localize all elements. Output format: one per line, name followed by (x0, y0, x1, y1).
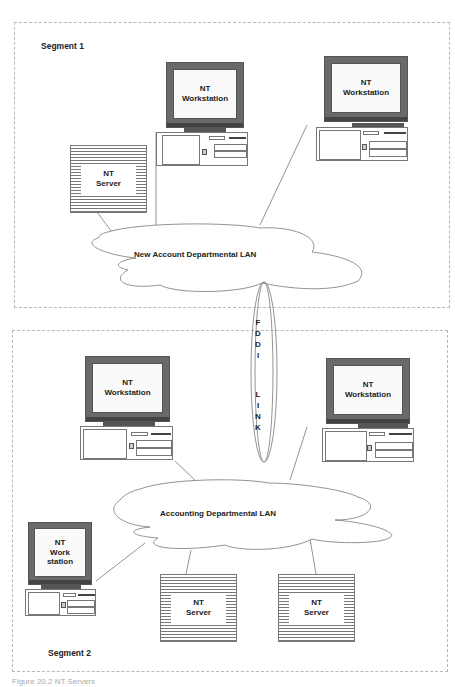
lan-label-accounting: Accounting Departmental LAN (160, 509, 276, 518)
server-label-line1: NT (193, 598, 204, 608)
fddi-link-ellipse (251, 282, 277, 462)
workstation-icon-seg2-left: NT Workstation (80, 356, 180, 464)
server-icon-seg1: NT Server (70, 145, 147, 213)
link-seg1-ws-right (260, 125, 307, 225)
server-label-line1: NT (311, 598, 322, 608)
server-icon-seg2-a: NT Server (160, 574, 237, 642)
workstation-label-line2: Work (50, 548, 70, 558)
lan-label-new-account: New Account Departmental LAN (134, 250, 256, 259)
server-icon-seg2-b: NT Server (278, 574, 355, 642)
workstation-label-line1: NT (363, 380, 374, 390)
workstation-label-line3: station (47, 557, 73, 567)
server-label-line1: NT (103, 169, 114, 179)
workstation-label-line1: NT (122, 378, 133, 388)
workstation-label-line2: Workstation (104, 388, 150, 398)
figure-caption: Figure 20.2 NT Servers (12, 677, 95, 686)
server-label-line2: Server (304, 608, 329, 618)
workstation-label-line1: NT (55, 538, 66, 548)
workstation-label-line2: Workstation (345, 390, 391, 400)
workstation-label-line2: Workstation (182, 94, 228, 104)
server-label-line2: Server (96, 179, 121, 189)
link-seg2-ws-small (96, 543, 145, 581)
workstation-label-line1: NT (200, 84, 211, 94)
fddi-label-bottom: L I N K (253, 389, 263, 433)
workstation-label-line2: Workstation (343, 88, 389, 98)
fddi-label-top: F D D I (253, 317, 263, 361)
link-seg2-ws-right (290, 427, 307, 480)
workstation-label-line1: NT (361, 78, 372, 88)
server-label-line2: Server (186, 608, 211, 618)
link-seg1-server (97, 212, 112, 232)
workstation-icon-seg2-right: NT Workstation (322, 358, 422, 466)
workstation-icon-seg1-right: NT Workstation (316, 56, 416, 164)
workstation-icon-seg1-left: NT Workstation (156, 62, 256, 170)
link-seg2-server-a (186, 550, 191, 574)
workstation-icon-seg2-small: NT Work station (25, 522, 100, 618)
link-seg2-server-b (310, 539, 316, 574)
